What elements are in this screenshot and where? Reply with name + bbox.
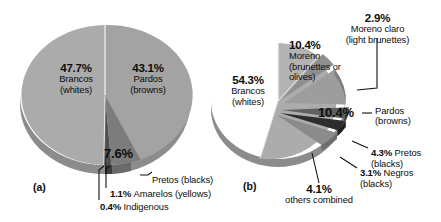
leader-b-negros	[340, 157, 357, 168]
pie-a-pardos-name2: (browns)	[113, 85, 183, 95]
figure-canvas: 47.7% Brancos (whites) 43.1% Pardos (bro…	[0, 0, 441, 222]
pie-a-label-indigenous: 0.4% Indigenous	[100, 196, 168, 213]
leader-b-moreno-claro	[357, 38, 377, 90]
pie-a-pretos-pct: 7.6%	[104, 146, 133, 161]
pie-b-others-name1: others combined	[260, 195, 378, 205]
pie-a-label-brancos: 47.7% Brancos (whites)	[38, 62, 114, 95]
pie-b-label-moreno-claro: 2.9% Moreno claro (light brunettes)	[330, 12, 425, 45]
pie-a-indigenous-pct: 0.4%	[100, 201, 121, 212]
panel-tag-a: (a)	[33, 182, 46, 193]
pie-b-label-pardos-pct: 10.4%	[318, 103, 354, 120]
pie-a-slice-brancos	[21, 25, 105, 165]
leader-b-pretos	[352, 141, 368, 148]
pie-b-label-brancos: 54.3% Brancos (whites)	[214, 74, 282, 107]
pie-a-label-pretos-pct: 7.6%	[104, 144, 133, 161]
pie-a-label-pardos: 43.1% Pardos (browns)	[113, 62, 183, 95]
pie-b-label-pardos-name: Pardos (browns)	[375, 106, 411, 126]
pie-b-pretos-pct: 4.3%	[371, 147, 392, 158]
pie-a-indigenous-name: Indigenous	[124, 201, 169, 212]
leader-a-pretos	[140, 172, 152, 175]
pie-b-brancos-name2: (whites)	[214, 97, 282, 107]
pie-b-moreno-claro-name2: (light brunettes)	[330, 35, 425, 45]
pie-b-label-others: 4.1% others combined	[260, 183, 378, 206]
pie-b-pardos-name2: (browns)	[375, 116, 411, 126]
pie-b-label-moreno: 10.4% Moreno (brunettes or olives)	[289, 39, 341, 82]
pie-b-moreno-name3: olives)	[289, 72, 341, 82]
pie-a-brancos-name2: (whites)	[38, 85, 114, 95]
panel-tag-b: (b)	[243, 181, 256, 192]
pie-b-negros-pct: 3.1%	[360, 167, 381, 178]
pie-b-negros-name1: Negros	[384, 167, 414, 178]
pie-b-pretos-name1: Pretos	[395, 147, 422, 158]
pie-b-pardos-pct: 10.4%	[318, 105, 354, 120]
leader-b-others	[312, 153, 319, 183]
